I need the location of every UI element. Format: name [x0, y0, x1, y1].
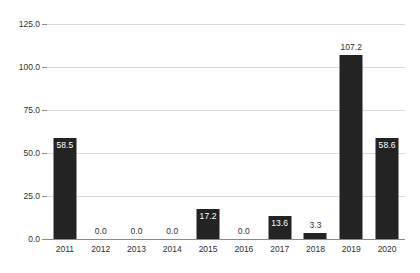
x-tick-label-2013: 2013 — [127, 244, 146, 254]
x-tick-label-2015: 2015 — [199, 244, 218, 254]
bar-2020[interactable] — [376, 138, 399, 239]
value-label-2020: 58.6 — [379, 140, 396, 150]
x-tick-label-2014: 2014 — [163, 244, 182, 254]
value-label-2014: 0.0 — [166, 226, 178, 236]
bar-2018[interactable] — [304, 233, 327, 239]
bar-group-2019: 107.2 — [333, 24, 369, 239]
value-label-2017: 13.6 — [271, 218, 288, 228]
value-label-2019: 107.2 — [340, 42, 362, 52]
x-tick-label-2011: 2011 — [56, 244, 74, 254]
bar-2011[interactable] — [53, 138, 76, 239]
y-tick-label-50: 50.0 — [2, 148, 40, 158]
bar-group-2018: 3.3 — [298, 24, 334, 239]
y-tickmark-0 — [42, 239, 47, 240]
bar-group-2020: 58.6 — [369, 24, 405, 239]
x-tick-label-2018: 2018 — [306, 244, 325, 254]
y-tick-label-100: 100.0 — [2, 62, 40, 72]
x-tick-label-2017: 2017 — [270, 244, 289, 254]
x-tick-label-2012: 2012 — [91, 244, 110, 254]
plot-area: 0.0 25.0 50.0 75.0 100.0 125.0 58.50.00.… — [47, 24, 405, 239]
x-tick-label-2020: 2020 — [378, 244, 397, 254]
x-tick-label-2019: 2019 — [342, 244, 361, 254]
y-tick-label-75: 75.0 — [2, 105, 40, 115]
y-tick-label-125: 125.0 — [2, 19, 40, 29]
value-label-2015: 17.2 — [200, 211, 217, 221]
bar-group-2011: 58.5 — [47, 24, 83, 239]
x-axis-line — [47, 239, 405, 240]
value-label-2013: 0.0 — [130, 226, 142, 236]
bars-layer: 58.50.00.00.017.20.013.63.3107.258.6 — [47, 24, 405, 239]
bar-group-2014: 0.0 — [154, 24, 190, 239]
bar-group-2015: 17.2 — [190, 24, 226, 239]
bar-group-2016: 0.0 — [226, 24, 262, 239]
y-tick-label-25: 25.0 — [2, 191, 40, 201]
bar-chart: 0.0 25.0 50.0 75.0 100.0 125.0 58.50.00.… — [0, 0, 420, 273]
x-tick-label-2016: 2016 — [234, 244, 253, 254]
value-label-2016: 0.0 — [238, 226, 250, 236]
bar-group-2013: 0.0 — [119, 24, 155, 239]
y-tick-label-0: 0.0 — [2, 234, 40, 244]
value-label-2012: 0.0 — [95, 226, 107, 236]
bar-group-2017: 13.6 — [262, 24, 298, 239]
bar-group-2012: 0.0 — [83, 24, 119, 239]
value-label-2018: 3.3 — [309, 220, 321, 230]
bar-2019[interactable] — [340, 55, 363, 239]
value-label-2011: 58.5 — [56, 140, 73, 150]
